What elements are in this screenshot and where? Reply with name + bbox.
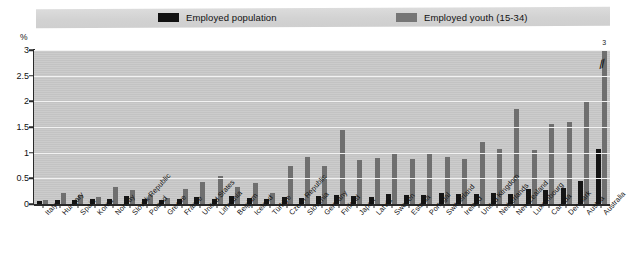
legend-label-employed-youth: Employed youth (15-34)	[424, 12, 528, 23]
x-category-label: Lithuania	[209, 206, 226, 268]
y-tick-label-1: 0.5	[16, 173, 29, 183]
x-category-label: Netherlands	[488, 206, 505, 268]
x-category-label: United Kingdom	[470, 206, 487, 268]
x-category-label: Sweden	[383, 206, 400, 268]
axis-break-marker: ∕∕	[598, 58, 610, 70]
legend-swatch-gray	[396, 13, 417, 22]
legend-label-employed-population: Employed population	[186, 12, 277, 23]
gridline-2	[34, 153, 610, 154]
y-tick-mark-2	[29, 152, 34, 154]
gridline-3	[34, 127, 610, 128]
bar-youth	[61, 193, 66, 204]
y-tick-mark-1	[29, 178, 34, 180]
x-category-label: Japan	[348, 206, 365, 268]
x-category-label: Canada	[540, 206, 557, 268]
x-category-label: Estonia	[401, 206, 418, 268]
x-category-label: Iceland	[243, 206, 260, 268]
x-category-label: Italy	[34, 206, 51, 268]
bar-youth	[375, 158, 380, 204]
y-tick-mark-0	[29, 203, 34, 205]
x-category-label: Australia	[593, 206, 610, 268]
chart-legend: Employed population Employed youth (15-3…	[36, 8, 610, 27]
x-category-label: United States	[191, 206, 208, 268]
bar-youth	[43, 200, 48, 204]
gridline-6	[34, 50, 610, 51]
x-category-label: Belgium	[226, 206, 243, 268]
x-category-label: Austria	[575, 206, 592, 268]
x-axis-category-labels: ItalyHungarySpainKoreaNorwaySlovak Repub…	[34, 206, 610, 268]
y-tick-mark-5	[29, 75, 34, 77]
y-axis-tick-labels: 00.511.522.53	[0, 0, 34, 268]
gridline-4	[34, 101, 610, 102]
x-category-label: Spain	[69, 206, 86, 268]
x-category-label: Portugal	[418, 206, 435, 268]
x-category-label: Latvia	[366, 206, 383, 268]
x-category-label: Türkiye	[261, 206, 278, 268]
x-category-label: Czech Republic	[278, 206, 295, 268]
x-category-label: Ireland	[453, 206, 470, 268]
legend-swatch-black	[158, 13, 179, 22]
x-category-label: Slovak Republic	[121, 206, 138, 268]
y-tick-mark-6	[29, 49, 34, 51]
y-tick-label-3: 1.5	[16, 122, 29, 132]
x-category-label: Denmark	[558, 206, 575, 268]
x-category-label: Korea	[86, 206, 103, 268]
bar-youth	[480, 142, 485, 204]
footnote-marker: 3	[602, 39, 606, 46]
legend-item-employed-population: Employed population	[158, 12, 277, 23]
x-category-label: Finland	[331, 206, 348, 268]
legend-item-employed-youth: Employed youth (15-34)	[396, 12, 528, 23]
x-category-label: New Zealand	[505, 206, 522, 268]
gridline-5	[34, 76, 610, 77]
x-category-label: Norway	[104, 206, 121, 268]
y-tick-mark-4	[29, 101, 34, 103]
x-category-label: Greece	[156, 206, 173, 268]
x-category-label: France	[174, 206, 191, 268]
x-category-label: Poland	[139, 206, 156, 268]
x-category-label: Hungary	[51, 206, 68, 268]
x-category-label: Germany	[313, 206, 330, 268]
x-category-label: Slovenia	[296, 206, 313, 268]
x-category-label: Switzerland	[435, 206, 452, 268]
y-tick-mark-3	[29, 126, 34, 128]
y-tick-label-5: 2.5	[16, 71, 29, 81]
x-category-label: Luxembourg	[523, 206, 540, 268]
